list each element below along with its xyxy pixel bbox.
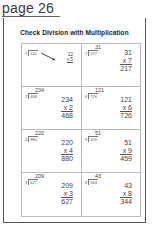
check-multiplier: x 3 [61, 190, 73, 199]
problem-cell: 234 2468 234 x 2 468 [22, 87, 82, 130]
dividend: 726 [88, 93, 98, 99]
check-product: 344 [120, 198, 132, 206]
check-factor: 31 [120, 49, 132, 57]
divisor: 7 [85, 51, 87, 56]
check-product: 217 [120, 65, 132, 73]
problem-cell: 220 4880 220 x 4 880 [22, 130, 82, 173]
check-product: 627 [61, 198, 73, 206]
division-problem: 6726 [85, 93, 98, 99]
check-product: 459 [120, 155, 132, 163]
check-factor: 121 [120, 96, 132, 104]
divisor: 4 [25, 137, 27, 142]
page-number-label: page 26 [2, 0, 54, 16]
divisor: 3 [25, 180, 27, 185]
multiplication-check: 234 x 2 468 [61, 96, 73, 120]
divisor: 5 [25, 51, 27, 56]
multiplication-check: 51 x 9 459 [120, 139, 132, 163]
division-problem: 3627 [25, 179, 38, 185]
check-multiplier: x 4 [61, 147, 73, 156]
check-multiplier: x 9 [120, 147, 132, 156]
check-product: 468 [61, 112, 73, 120]
problem-cell: 43 8344 43 x 8 344 [82, 173, 140, 216]
problem-cell: 209 3627 209 x 3 627 [22, 173, 82, 216]
multiplication-check: 121 x 6 726 [120, 96, 132, 120]
worksheet: Check Division with Multiplication 5110 … [3, 18, 146, 223]
worksheet-title: Check Division with Multiplication [4, 29, 145, 36]
divisor: 6 [85, 94, 87, 99]
check-multiplier: x 2 [61, 104, 73, 113]
check-multiplier: x 8 [120, 190, 132, 199]
check-multiplier: x 6 [120, 104, 132, 113]
division-problem: 2468 [25, 93, 38, 99]
multiplication-check: 220 x 4 880 [61, 139, 73, 163]
divisor: 8 [85, 180, 87, 185]
check-factor: 234 [61, 96, 73, 104]
multiplication-check: 43 x 8 344 [120, 182, 132, 206]
problem-cell: 31 7217 31 x 7 217 [82, 44, 140, 87]
divisor: 9 [85, 137, 87, 142]
dividend: 217 [88, 50, 98, 56]
problem-cell: 5110 22 x 5 110 [22, 44, 82, 87]
dividend: 459 [88, 136, 98, 142]
check-factor: 220 [61, 139, 73, 147]
problem-grid: 5110 22 x 5 110 31 7217 31 x 7 217 234 [21, 43, 141, 217]
dividend: 880 [28, 136, 38, 142]
problem-cell: 121 6726 121 x 6 726 [82, 87, 140, 130]
problem-cell: 51 9459 51 x 9 459 [82, 130, 140, 173]
division-problem: 4880 [25, 136, 38, 142]
check-factor: 51 [120, 139, 132, 147]
dividend: 468 [28, 93, 38, 99]
check-factor: 43 [120, 182, 132, 190]
division-problem: 9459 [85, 136, 98, 142]
multiplication-check: 209 x 3 627 [61, 182, 73, 206]
multiplication-check: 22 x 5 110 [67, 52, 73, 63]
dividend: 627 [28, 179, 38, 185]
dividend: 110 [28, 50, 37, 56]
check-product: 880 [61, 155, 73, 163]
division-problem: 5110 [25, 50, 38, 56]
arrow-icon [40, 52, 58, 62]
multiplication-check: 31 x 7 217 [120, 49, 132, 73]
division-problem: 8344 [85, 179, 98, 185]
check-product: 726 [120, 112, 132, 120]
header-divider [2, 16, 60, 17]
check-multiplier: x 7 [120, 57, 132, 66]
divisor: 2 [25, 94, 27, 99]
dividend: 344 [88, 179, 98, 185]
check-multiplier: x 5 [67, 57, 73, 63]
division-problem: 7217 [85, 50, 98, 56]
check-factor: 209 [61, 182, 73, 190]
